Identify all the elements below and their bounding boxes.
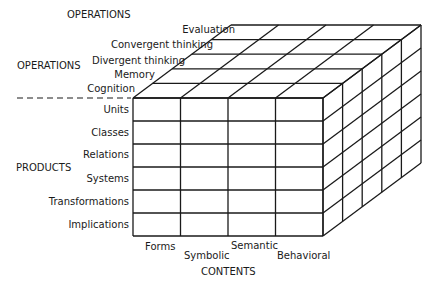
product-label-units: Units: [103, 104, 129, 116]
product-label-classes: Classes: [91, 127, 129, 139]
operation-label-evaluation: Evaluation: [182, 24, 235, 36]
grid-line: [323, 94, 421, 167]
structure-of-intellect-cube-diagram: OPERATIONS OPERATIONS PRODUCTS CONTENTS …: [0, 0, 435, 289]
grid-line: [323, 163, 421, 236]
product-label-relations: Relations: [83, 149, 129, 161]
products-title: PRODUCTS: [16, 162, 71, 174]
grid-line: [276, 25, 374, 98]
operations-title-top: OPERATIONS: [67, 9, 131, 21]
product-label-implications: Implications: [68, 219, 129, 231]
grid-line: [323, 25, 421, 98]
content-label-behavioral: Behavioral: [277, 250, 330, 262]
operations-title-left: OPERATIONS: [17, 60, 81, 72]
product-label-systems: Systems: [87, 173, 130, 185]
contents-title: CONTENTS: [201, 266, 256, 278]
operation-label-memory: Memory: [114, 69, 155, 81]
product-label-transformations: Transformations: [49, 196, 129, 208]
grid-line: [323, 117, 421, 190]
content-label-forms: Forms: [145, 241, 175, 253]
operation-label-cognition: Cognition: [87, 83, 135, 95]
grid-line: [323, 71, 421, 144]
operation-label-divergent-thinking: Divergent thinking: [92, 55, 185, 67]
grid-line: [323, 140, 421, 213]
grid-line: [228, 25, 326, 98]
content-label-symbolic: Symbolic: [184, 250, 230, 262]
operation-label-convergent-thinking: Convergent thinking: [111, 39, 213, 51]
grid-line: [323, 48, 421, 121]
content-label-semantic: Semantic: [231, 240, 278, 252]
cube-grid: [0, 0, 435, 289]
